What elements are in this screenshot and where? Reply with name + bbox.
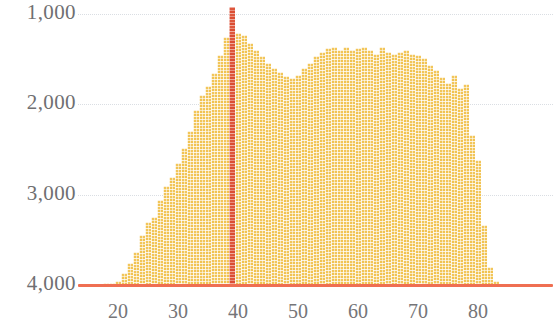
x-tick-label-30: 30 bbox=[156, 300, 200, 323]
baseline-4000 bbox=[78, 284, 553, 287]
y-tick-label-2000: 2,000 bbox=[4, 90, 76, 115]
plot-area bbox=[78, 0, 553, 290]
histogram-chart: 1,0002,0003,0004,000 20304050607080 bbox=[0, 0, 553, 333]
gridline-1000 bbox=[78, 14, 553, 16]
x-axis: 20304050607080 bbox=[0, 292, 553, 333]
y-tick-label-1000: 1,000 bbox=[4, 0, 76, 25]
x-tick-label-20: 20 bbox=[96, 300, 140, 323]
x-tick-label-70: 70 bbox=[396, 300, 440, 323]
x-tick-label-60: 60 bbox=[336, 300, 380, 323]
x-tick-label-40: 40 bbox=[216, 300, 260, 323]
x-tick-label-80: 80 bbox=[456, 300, 500, 323]
x-tick-label-50: 50 bbox=[276, 300, 320, 323]
y-tick-label-3000: 3,000 bbox=[4, 181, 76, 206]
y-axis: 1,0002,0003,0004,000 bbox=[0, 0, 76, 290]
